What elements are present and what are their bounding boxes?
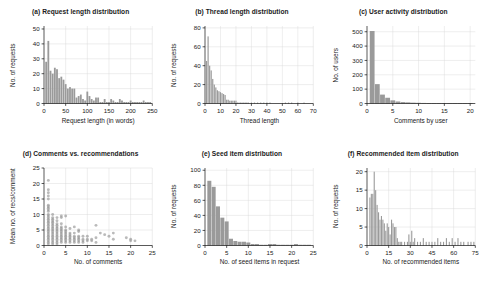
svg-text:150: 150 xyxy=(104,107,115,114)
svg-text:10: 10 xyxy=(84,249,91,256)
panel-title-a: (a) Request length distribution xyxy=(0,8,161,15)
gridlines-c xyxy=(367,26,475,104)
xaxis-label-f: No. of recommended items xyxy=(367,258,475,265)
svg-text:50: 50 xyxy=(33,25,40,32)
svg-text:20: 20 xyxy=(127,249,134,256)
panel-a: (a) Request length distribution050100150… xyxy=(0,0,161,142)
panel-title-c: (c) User activity distribution xyxy=(323,8,484,15)
panel-title-f: (f) Recommended item distribution xyxy=(323,150,484,157)
svg-text:5: 5 xyxy=(64,249,68,256)
gridlines-a xyxy=(44,26,152,104)
svg-text:500: 500 xyxy=(352,28,363,35)
panel-title-e: (e) Seed item distribution xyxy=(161,150,322,157)
svg-text:20: 20 xyxy=(466,107,473,114)
yaxis-label-d: Mean no. of recs/comment xyxy=(9,168,16,246)
svg-text:200: 200 xyxy=(125,107,136,114)
yaxis-label-c: No. of users xyxy=(332,26,339,104)
figure-grid: (a) Request length distribution050100150… xyxy=(0,0,484,283)
data-marks-c xyxy=(369,31,472,104)
svg-text:0: 0 xyxy=(204,107,208,114)
svg-text:20: 20 xyxy=(194,81,201,88)
xaxis-label-a: Request length (in words) xyxy=(44,117,152,124)
svg-text:5: 5 xyxy=(391,107,395,114)
svg-text:20: 20 xyxy=(194,226,201,233)
gridlines-b xyxy=(205,26,313,104)
svg-text:40: 40 xyxy=(264,107,271,114)
svg-text:100: 100 xyxy=(82,107,93,114)
panel-f: (f) Recommended item distribution0153045… xyxy=(323,142,484,283)
svg-text:50: 50 xyxy=(62,107,69,114)
svg-text:30: 30 xyxy=(406,249,413,256)
svg-text:25: 25 xyxy=(310,249,317,256)
data-marks-d xyxy=(47,178,137,244)
panel-b: (b) Thread length distribution0102030405… xyxy=(161,0,322,142)
yaxis-label-e: No. of requests xyxy=(170,168,177,246)
svg-text:25: 25 xyxy=(33,164,40,171)
xaxis-label-d: No. of comments xyxy=(44,258,152,265)
svg-text:20: 20 xyxy=(33,179,40,186)
yaxis-label-f: No. of requests xyxy=(332,168,339,246)
panel-d: (d) Comments vs. recommendations05101520… xyxy=(0,142,161,283)
svg-text:100: 100 xyxy=(352,85,363,92)
panel-title-b: (b) Thread length distribution xyxy=(161,8,322,15)
svg-text:15: 15 xyxy=(267,249,274,256)
svg-text:300: 300 xyxy=(352,57,363,64)
svg-text:0: 0 xyxy=(36,241,40,248)
svg-text:15: 15 xyxy=(385,249,392,256)
svg-text:15: 15 xyxy=(441,107,448,114)
svg-text:200: 200 xyxy=(352,71,363,78)
svg-text:45: 45 xyxy=(428,249,435,256)
svg-text:0: 0 xyxy=(365,249,369,256)
panel-c: (c) User activity distribution0510152001… xyxy=(323,0,484,142)
panel-title-d: (d) Comments vs. recommendations xyxy=(0,150,161,157)
svg-text:60: 60 xyxy=(194,43,201,50)
svg-text:20: 20 xyxy=(288,249,295,256)
svg-text:20: 20 xyxy=(355,167,362,174)
svg-text:60: 60 xyxy=(450,249,457,256)
svg-text:15: 15 xyxy=(355,186,362,193)
svg-text:10: 10 xyxy=(33,85,40,92)
svg-text:80: 80 xyxy=(194,24,201,31)
svg-text:0: 0 xyxy=(365,107,369,114)
svg-text:75: 75 xyxy=(471,249,478,256)
svg-text:10: 10 xyxy=(33,210,40,217)
svg-text:30: 30 xyxy=(248,107,255,114)
svg-text:0: 0 xyxy=(197,241,201,248)
svg-text:0: 0 xyxy=(359,241,363,248)
svg-text:30: 30 xyxy=(33,55,40,62)
svg-text:0: 0 xyxy=(36,100,40,107)
svg-text:5: 5 xyxy=(36,226,40,233)
svg-text:0: 0 xyxy=(197,100,201,107)
svg-text:15: 15 xyxy=(106,249,113,256)
svg-text:250: 250 xyxy=(147,107,158,114)
svg-text:60: 60 xyxy=(194,196,201,203)
svg-text:15: 15 xyxy=(33,195,40,202)
xaxis-label-c: Comments by user xyxy=(367,117,475,124)
yaxis-label-a: No. of requests xyxy=(9,26,16,104)
xaxis-label-e: No. of seed items in request xyxy=(205,258,313,265)
svg-text:10: 10 xyxy=(217,107,224,114)
svg-text:100: 100 xyxy=(191,166,202,173)
svg-text:0: 0 xyxy=(359,100,363,107)
svg-text:70: 70 xyxy=(310,107,317,114)
xaxis-label-b: Thread length xyxy=(205,117,313,124)
svg-text:20: 20 xyxy=(233,107,240,114)
svg-text:60: 60 xyxy=(295,107,302,114)
svg-text:10: 10 xyxy=(245,249,252,256)
svg-text:10: 10 xyxy=(415,107,422,114)
svg-text:5: 5 xyxy=(225,249,229,256)
svg-text:10: 10 xyxy=(355,204,362,211)
data-marks-b xyxy=(206,36,305,103)
svg-text:50: 50 xyxy=(279,107,286,114)
svg-text:40: 40 xyxy=(194,211,201,218)
svg-text:0: 0 xyxy=(42,249,46,256)
panel-e: (e) Seed item distribution05101520250204… xyxy=(161,142,322,283)
svg-text:40: 40 xyxy=(33,40,40,47)
yaxis-label-b: No. of requests xyxy=(170,26,177,104)
data-marks-a xyxy=(45,41,151,104)
svg-text:40: 40 xyxy=(194,62,201,69)
data-marks-e xyxy=(208,180,312,245)
svg-text:0: 0 xyxy=(42,107,46,114)
svg-text:20: 20 xyxy=(33,70,40,77)
svg-text:400: 400 xyxy=(352,42,363,49)
